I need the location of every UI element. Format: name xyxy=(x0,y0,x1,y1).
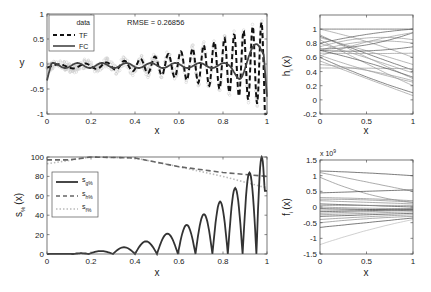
svg-text:0.6: 0.6 xyxy=(173,117,185,126)
svg-text:1.5: 1.5 xyxy=(306,156,318,165)
h-panel: 00.51-0.200.20.40.60.81 x hi(x) xyxy=(281,15,416,136)
svg-text:0.8: 0.8 xyxy=(306,39,318,48)
svg-text:1: 1 xyxy=(313,25,318,34)
svg-text:0: 0 xyxy=(318,257,323,266)
h-xlabel: x xyxy=(364,125,369,136)
fit-panel: 00.20.40.60.81-1-0.500.51 x y RMSE = 0.2… xyxy=(20,10,270,136)
h-axes-box xyxy=(320,15,413,114)
svg-text:1: 1 xyxy=(40,10,45,19)
svg-text:1: 1 xyxy=(411,257,416,266)
svg-text:0.5: 0.5 xyxy=(33,35,45,44)
legend-data-label: data xyxy=(76,19,90,26)
svg-text:-1: -1 xyxy=(310,234,318,243)
s-panel: 00.20.40.60.81020406080100 x s%(x) sg% s… xyxy=(13,153,270,278)
svg-text:1: 1 xyxy=(265,257,270,266)
h-lines xyxy=(320,29,413,96)
svg-text:-1.5: -1.5 xyxy=(303,250,317,259)
f-xlabel: x xyxy=(364,267,369,278)
svg-text:-0.2: -0.2 xyxy=(303,110,317,119)
svg-text:80: 80 xyxy=(35,172,44,181)
svg-text:20: 20 xyxy=(35,231,44,240)
s-xlabel: x xyxy=(155,267,160,278)
h-ylabel: hi(x) xyxy=(281,56,294,77)
figure: 00.20.40.60.81-1-0.500.51 x y RMSE = 0.2… xyxy=(0,0,431,292)
f-scale-label: x 109 xyxy=(320,148,336,157)
svg-text:0.2: 0.2 xyxy=(85,117,97,126)
s-ylabel: s%(x) xyxy=(13,193,26,217)
fit-legend: data TF FC xyxy=(49,15,94,51)
svg-text:1: 1 xyxy=(411,117,416,126)
svg-text:0: 0 xyxy=(40,60,45,69)
svg-text:1: 1 xyxy=(265,117,270,126)
f-ylabel: fi(x) xyxy=(281,198,294,216)
svg-text:-0.5: -0.5 xyxy=(303,219,317,228)
svg-text:0: 0 xyxy=(313,96,318,105)
svg-text:0: 0 xyxy=(45,117,50,126)
legend-tf-label: TF xyxy=(79,32,88,39)
svg-text:0.6: 0.6 xyxy=(173,257,185,266)
s-legend: sg% sh% sf% xyxy=(52,172,98,217)
svg-text:0.4: 0.4 xyxy=(306,68,318,77)
svg-text:0.4: 0.4 xyxy=(129,257,141,266)
svg-text:0: 0 xyxy=(45,257,50,266)
f-panel: 00.51-1.5-1-0.500.511.5 x x 109 fi(x) xyxy=(281,148,416,278)
svg-text:0: 0 xyxy=(318,117,323,126)
svg-text:-0.5: -0.5 xyxy=(30,85,44,94)
svg-text:0.5: 0.5 xyxy=(306,187,318,196)
svg-text:0: 0 xyxy=(313,203,318,212)
svg-text:0.8: 0.8 xyxy=(217,257,229,266)
svg-text:0.6: 0.6 xyxy=(306,53,318,62)
svg-text:0.2: 0.2 xyxy=(306,82,318,91)
rmse-annotation: RMSE = 0.26856 xyxy=(127,18,184,27)
svg-text:0.5: 0.5 xyxy=(361,257,373,266)
svg-text:1: 1 xyxy=(313,172,318,181)
f-lines xyxy=(320,171,413,245)
fc-line xyxy=(47,44,267,96)
svg-text:0.2: 0.2 xyxy=(85,257,97,266)
svg-text:40: 40 xyxy=(35,211,44,220)
svg-text:-1: -1 xyxy=(37,110,45,119)
svg-text:100: 100 xyxy=(31,153,45,162)
svg-text:60: 60 xyxy=(35,192,44,201)
svg-text:0.8: 0.8 xyxy=(217,117,229,126)
legend-fc-label: FC xyxy=(79,43,88,50)
svg-text:0.4: 0.4 xyxy=(129,117,141,126)
fit-ylabel: y xyxy=(20,57,25,68)
fit-xlabel: x xyxy=(155,125,160,136)
svg-text:0: 0 xyxy=(40,250,45,259)
